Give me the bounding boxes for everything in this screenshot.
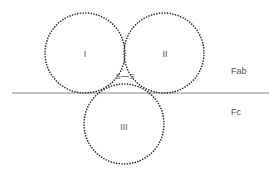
disulfide-s-left: S xyxy=(116,73,121,80)
region-label-fab: Fab xyxy=(231,66,247,76)
domain-label-ii: II xyxy=(162,49,167,59)
region-label-fc: Fc xyxy=(231,107,241,117)
domain-label-iii: III xyxy=(120,122,128,132)
disulfide-s-right: S xyxy=(130,73,135,80)
domain-label-i: I xyxy=(84,49,87,59)
antibody-domain-diagram: I II III S S Fab Fc xyxy=(0,0,275,172)
